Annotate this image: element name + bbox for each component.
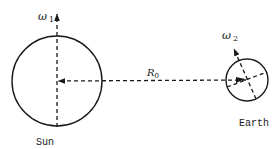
sun bbox=[12, 14, 102, 127]
sun-earth-diagram: ω1 R0 ω2 Sun Earth bbox=[0, 0, 278, 149]
earth-label: Earth bbox=[239, 118, 269, 129]
earth-omega-label: ω2 bbox=[222, 29, 238, 43]
distance-label: R0 bbox=[146, 67, 159, 80]
sun-label: Sun bbox=[36, 137, 54, 148]
sun-omega-label: ω1 bbox=[38, 10, 54, 24]
earth-equator-line bbox=[227, 72, 267, 87]
distance-line bbox=[58, 80, 246, 81]
earth-rotation-axis bbox=[234, 49, 256, 99]
earth bbox=[226, 49, 268, 101]
